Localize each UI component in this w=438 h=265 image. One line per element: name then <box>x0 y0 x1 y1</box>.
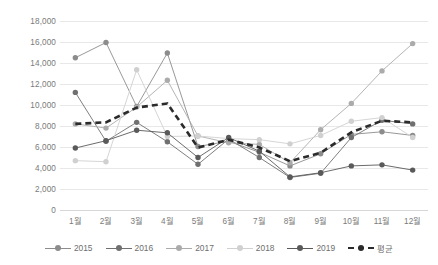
legend-swatch-icon <box>348 244 374 253</box>
data-point <box>103 40 108 45</box>
legend-label: 평균 <box>377 242 393 254</box>
legend-item-2018[interactable]: 2018 <box>227 243 275 253</box>
data-point <box>73 55 78 60</box>
chart-legend: 20152016201720182019평균 <box>0 238 438 258</box>
data-point <box>379 115 384 120</box>
legend-item-평균[interactable]: 평균 <box>348 242 393 254</box>
data-point <box>410 135 415 140</box>
x-tick-label-7: 7월 <box>253 214 266 226</box>
data-point <box>318 127 323 132</box>
data-point <box>349 135 354 140</box>
data-point <box>410 121 415 126</box>
data-point <box>349 119 354 124</box>
legend-swatch-icon <box>106 244 132 253</box>
legend-label: 2019 <box>316 243 335 253</box>
legend-label: 2017 <box>195 243 214 253</box>
data-point <box>318 170 323 175</box>
x-tick-label-2: 2월 <box>100 214 113 226</box>
legend-swatch-icon <box>45 244 71 253</box>
x-tick-label-5: 5월 <box>192 214 205 226</box>
data-point <box>165 78 170 83</box>
legend-swatch-icon <box>227 244 253 253</box>
data-point <box>103 125 108 130</box>
data-point <box>195 162 200 167</box>
data-point <box>165 50 170 55</box>
legend-item-2017[interactable]: 2017 <box>166 243 214 253</box>
series-line-평균 <box>75 103 412 161</box>
data-point <box>195 155 200 160</box>
x-tick-label-12: 12월 <box>404 214 421 226</box>
legend-swatch-icon <box>287 244 313 253</box>
legend-item-2015[interactable]: 2015 <box>45 243 93 253</box>
legend-label: 2016 <box>135 243 154 253</box>
data-point <box>73 145 78 150</box>
data-point <box>257 155 262 160</box>
data-point <box>349 163 354 168</box>
data-point <box>379 129 384 134</box>
legend-label: 2015 <box>74 243 93 253</box>
data-point <box>134 67 139 72</box>
series-line-2015 <box>75 43 412 166</box>
data-point <box>287 174 292 179</box>
x-tick-label-9: 9월 <box>314 214 327 226</box>
series-평균 <box>75 103 412 161</box>
x-tick-label-10: 10월 <box>343 214 360 226</box>
data-point <box>257 137 262 142</box>
series-line-2016 <box>75 92 412 177</box>
x-tick-label-11: 11월 <box>374 214 391 226</box>
series-2019 <box>73 128 416 180</box>
x-tick-label-1: 1월 <box>69 214 82 226</box>
data-point <box>73 90 78 95</box>
legend-item-2016[interactable]: 2016 <box>106 243 154 253</box>
data-point <box>165 130 170 135</box>
series-line-2019 <box>75 130 412 177</box>
data-point <box>349 101 354 106</box>
data-point <box>379 162 384 167</box>
x-tick-label-6: 6월 <box>222 214 235 226</box>
data-point <box>410 167 415 172</box>
x-tick-label-3: 3월 <box>130 214 143 226</box>
data-point <box>287 141 292 146</box>
series-2015 <box>73 40 416 169</box>
x-axis: 1월2월3월4월5월6월7월8월9월10월11월12월 <box>60 212 428 232</box>
data-point <box>410 41 415 46</box>
legend-swatch-icon <box>166 244 192 253</box>
x-tick-label-8: 8월 <box>284 214 297 226</box>
line-chart: 18,00016,00014,00012,00010,0008,0006,000… <box>0 0 438 265</box>
data-point <box>379 68 384 73</box>
data-point <box>134 120 139 125</box>
legend-item-2019[interactable]: 2019 <box>287 243 335 253</box>
data-point <box>195 133 200 138</box>
data-point <box>318 133 323 138</box>
data-point <box>73 158 78 163</box>
legend-label: 2018 <box>256 243 275 253</box>
data-point <box>103 159 108 164</box>
data-point <box>103 138 108 143</box>
data-point <box>165 139 170 144</box>
x-tick-label-4: 4월 <box>161 214 174 226</box>
data-point <box>134 128 139 133</box>
